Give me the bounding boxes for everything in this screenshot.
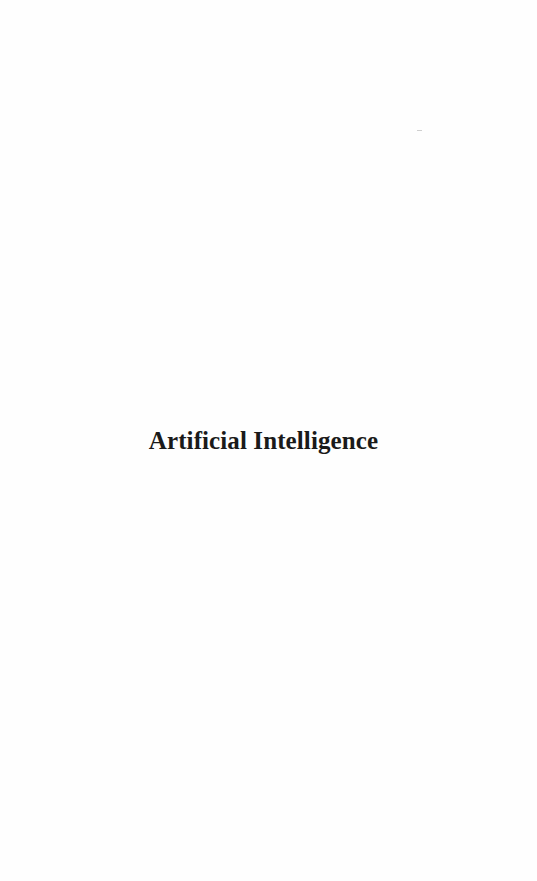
page-title: Artificial Intelligence: [0, 424, 527, 458]
book-half-title-page: Artificial Intelligence: [0, 0, 537, 881]
scan-artifact: [417, 130, 422, 131]
